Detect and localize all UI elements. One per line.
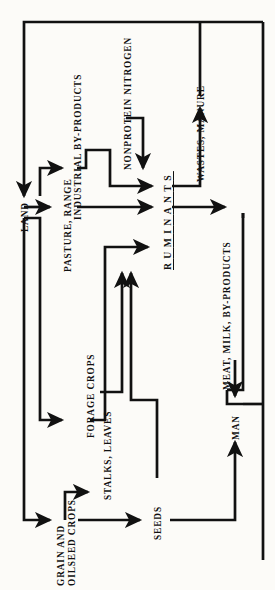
node-label-man: MAN [231,415,241,440]
diagram-connectors [0,0,275,590]
node-label-meat-milk-byproducts: MEAT, MILK, BY-PRODUCTS [222,241,232,390]
node-label-forage-crops: FORAGE CROPS [86,354,96,438]
edge-stalks-to-ruminants [100,273,122,392]
edge-seeds-to-man [170,442,235,520]
edge-seeds-to-ruminants [131,273,157,478]
node-label-seeds: SEEDS [153,506,163,540]
edge-industrial-to-ruminants [77,150,152,186]
node-label-nonprotein-nitrogen: NONPROTEIN NITROGEN [123,37,133,170]
grain-line-1: GRAIN AND [56,499,67,586]
edge-return-to-land [24,22,200,196]
node-label-land: LAND [20,202,30,232]
node-label-wastes-manure: WASTES, MANURE [196,85,206,182]
node-label-stalks-leaves: STALKS, LEAVES [103,411,113,500]
node-label-grain-oilseed-crops: GRAIN AND OILSEED CROPS [56,499,78,586]
edge-land-to-grain [24,218,50,520]
node-label-ruminants: RUMINANTS [162,171,173,270]
node-label-industrial-byproducts: INDUSTRIAL BY-PRODUCTS [73,74,83,220]
edge-forage-to-ruminants [90,247,148,420]
grain-line-2: OILSEED CROPS [67,499,78,586]
edge-land-upper-stub [40,168,62,196]
flow-diagram: LAND PASTURE, RANGE INDUSTRIAL BY-PRODUC… [0,0,275,590]
edge-land-to-forage [24,218,62,420]
node-label-pasture-range: PASTURE, RANGE [63,178,73,272]
